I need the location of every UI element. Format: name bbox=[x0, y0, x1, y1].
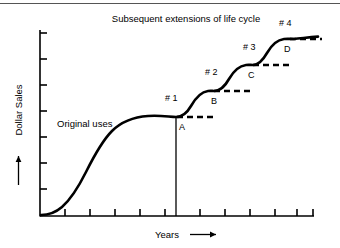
original-uses-label: Original uses bbox=[57, 118, 113, 129]
extension-label-1: # 1 bbox=[165, 93, 178, 103]
x-axis-label: Years bbox=[155, 229, 179, 240]
extension-label-3: # 3 bbox=[243, 42, 256, 52]
x-axis-ticks bbox=[65, 209, 313, 216]
extension-label-2: # 2 bbox=[205, 67, 218, 77]
y-axis-ticks bbox=[40, 33, 47, 189]
chart-canvas: Subsequent extensions of life cycle bbox=[0, 0, 340, 248]
point-label-d: D bbox=[284, 44, 291, 54]
y-axis-arrow-icon bbox=[16, 156, 22, 185]
x-axis bbox=[40, 209, 314, 216]
y-axis-label: Dollar Sales bbox=[13, 84, 24, 135]
top-divider-rule bbox=[0, 3, 340, 4]
life-cycle-extension-chart: Subsequent extensions of life cycle bbox=[0, 0, 340, 248]
point-label-b: B bbox=[211, 96, 217, 106]
point-label-a: A bbox=[179, 122, 185, 132]
extension-label-4: # 4 bbox=[279, 18, 292, 28]
y-axis bbox=[40, 30, 47, 217]
point-label-c: C bbox=[248, 70, 255, 80]
x-axis-arrow-icon bbox=[190, 232, 216, 238]
chart-title: Subsequent extensions of life cycle bbox=[112, 13, 260, 24]
